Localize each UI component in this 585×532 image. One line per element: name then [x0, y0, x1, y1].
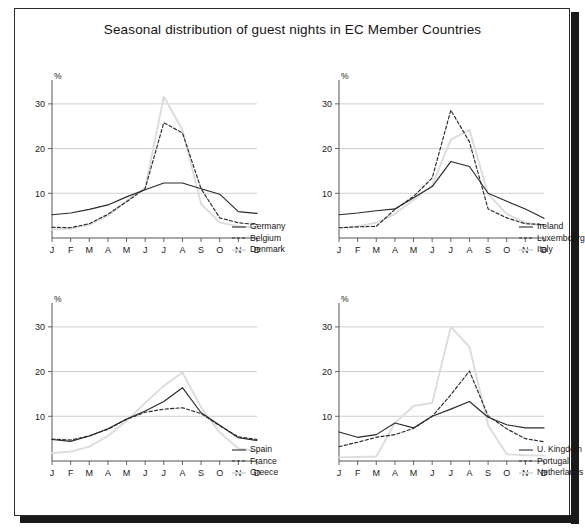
x-tick-label: S [485, 468, 491, 478]
legend-label: U. Kingdom [537, 444, 582, 456]
x-tick-label: J [430, 468, 435, 478]
x-tick-label: F [355, 245, 361, 255]
x-tick-label: A [179, 468, 185, 478]
y-axis-unit-label: % [341, 295, 349, 304]
x-tick-label: A [392, 245, 398, 255]
legend-bottom-left: SpainFranceGreece [232, 444, 278, 479]
page-title: Seasonal distribution of guest nights in… [0, 22, 585, 37]
legend-line-swatch-solid [232, 445, 246, 455]
x-tick-label: J [50, 245, 55, 255]
x-tick-label: A [466, 468, 472, 478]
y-tick-label: 10 [322, 189, 332, 199]
y-tick-label: 10 [35, 412, 45, 422]
series-line-spain [52, 388, 257, 442]
legend-item: Germany [232, 221, 285, 233]
x-tick-label: M [123, 468, 131, 478]
x-tick-label: A [466, 245, 472, 255]
series-line-denmark [52, 97, 257, 230]
series-line-ireland [339, 162, 544, 219]
chart-panel-bottom-right: 102030%JFMAMJJASOND [311, 295, 552, 483]
series-line-germany [52, 183, 257, 215]
x-tick-label: M [123, 245, 131, 255]
legend-item: France [232, 456, 278, 468]
x-tick-label: A [105, 245, 111, 255]
legend-line-swatch-solid [519, 222, 533, 232]
series-line-netherlands [339, 327, 544, 458]
y-tick-label: 20 [322, 367, 332, 377]
legend-bottom-right: U. KingdomPortugalNetherlands [519, 444, 583, 479]
y-tick-label: 30 [35, 99, 45, 109]
legend-label: France [250, 456, 277, 468]
legend-label: Netherlands [537, 467, 583, 479]
legend-label: Luxembourg [537, 233, 585, 245]
x-tick-label: M [86, 468, 94, 478]
series-line-france [52, 408, 257, 440]
chart-panel-top-left: 102030%JFMAMJJASOND [24, 72, 265, 260]
legend-line-swatch-light [232, 245, 246, 255]
x-tick-label: J [449, 245, 454, 255]
x-tick-label: S [485, 245, 491, 255]
legend-line-swatch-dashed [232, 233, 246, 243]
x-tick-label: F [68, 245, 74, 255]
legend-item: Netherlands [519, 467, 583, 479]
legend-line-swatch-solid [519, 445, 533, 455]
x-tick-label: M [373, 468, 381, 478]
y-tick-label: 30 [322, 99, 332, 109]
y-axis-unit-label: % [54, 72, 62, 81]
x-tick-label: O [216, 468, 223, 478]
x-tick-label: M [410, 245, 418, 255]
chart-panel-top-right: 102030%JFMAMJJASOND [311, 72, 552, 260]
x-tick-label: J [337, 245, 342, 255]
x-tick-label: A [105, 468, 111, 478]
frame-shadow-bottom [20, 515, 579, 523]
x-tick-label: J [430, 245, 435, 255]
legend-label: Germany [250, 221, 285, 233]
legend-line-swatch-light [232, 468, 246, 478]
x-tick-label: S [198, 245, 204, 255]
legend-label: Portugal [537, 456, 569, 468]
legend-line-swatch-light [519, 468, 533, 478]
legend-label: Ireland [537, 221, 563, 233]
x-tick-label: J [162, 245, 167, 255]
x-tick-label: F [68, 468, 74, 478]
legend-line-swatch-solid [232, 222, 246, 232]
legend-label: Belgium [250, 233, 281, 245]
legend-item: U. Kingdom [519, 444, 583, 456]
legend-item: Ireland [519, 221, 585, 233]
legend-label: Denmark [250, 244, 285, 256]
figure-root: Seasonal distribution of guest nights in… [0, 0, 585, 532]
x-tick-label: O [503, 468, 510, 478]
y-axis-unit-label: % [341, 72, 349, 81]
legend-top-right: IrelandLuxembourgItaly [519, 221, 585, 256]
x-tick-label: J [143, 245, 148, 255]
x-tick-label: M [86, 245, 94, 255]
line-chart-top-right: 102030%JFMAMJJASOND [311, 72, 552, 260]
x-tick-label: O [503, 245, 510, 255]
x-tick-label: J [337, 468, 342, 478]
legend-line-swatch-dashed [519, 456, 533, 466]
x-tick-label: J [449, 468, 454, 478]
line-chart-bottom-right: 102030%JFMAMJJASOND [311, 295, 552, 483]
legend-line-swatch-light [519, 245, 533, 255]
legend-item: Luxembourg [519, 233, 585, 245]
y-tick-label: 20 [35, 367, 45, 377]
legend-item: Denmark [232, 244, 285, 256]
chart-panel-bottom-left: 102030%JFMAMJJASOND [24, 295, 265, 483]
series-line-u-kingdom [339, 402, 544, 438]
x-tick-label: M [373, 245, 381, 255]
x-tick-label: J [143, 468, 148, 478]
series-line-luxembourg [339, 110, 544, 228]
y-tick-label: 30 [322, 322, 332, 332]
legend-item: Belgium [232, 233, 285, 245]
legend-item: Spain [232, 444, 278, 456]
y-tick-label: 30 [35, 322, 45, 332]
x-tick-label: O [216, 245, 223, 255]
x-tick-label: M [410, 468, 418, 478]
y-axis-unit-label: % [54, 295, 62, 304]
y-tick-label: 10 [35, 189, 45, 199]
legend-line-swatch-dashed [232, 456, 246, 466]
legend-label: Greece [250, 467, 278, 479]
x-tick-label: J [162, 468, 167, 478]
x-tick-label: J [50, 468, 55, 478]
x-tick-label: F [355, 468, 361, 478]
